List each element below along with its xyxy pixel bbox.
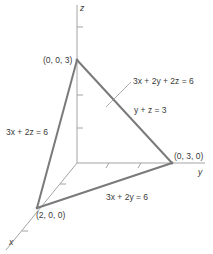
vertex-x <box>36 207 39 210</box>
xy-trace-equation: 3x + 2y = 6 <box>106 193 148 202</box>
point-x-intercept: (2, 0, 0) <box>36 211 65 220</box>
y-tick <box>138 163 141 168</box>
vertex-z <box>76 59 79 62</box>
xz-trace-equation: 3x + 2z = 6 <box>6 128 48 137</box>
x-axis-label: x <box>9 238 13 247</box>
point-y-intercept: (0, 3, 0) <box>174 152 203 161</box>
yz-trace-equation: y + z = 3 <box>134 106 167 115</box>
plane-equation: 3x + 2y + 2z = 6 <box>133 77 194 86</box>
vertex-y <box>171 162 174 165</box>
z-axis-label: z <box>80 4 84 13</box>
y-axis-label: y <box>198 168 202 177</box>
point-z-intercept: (0, 0, 3) <box>43 56 72 65</box>
y-tick <box>106 163 109 168</box>
edge-xy-trace <box>37 163 172 208</box>
